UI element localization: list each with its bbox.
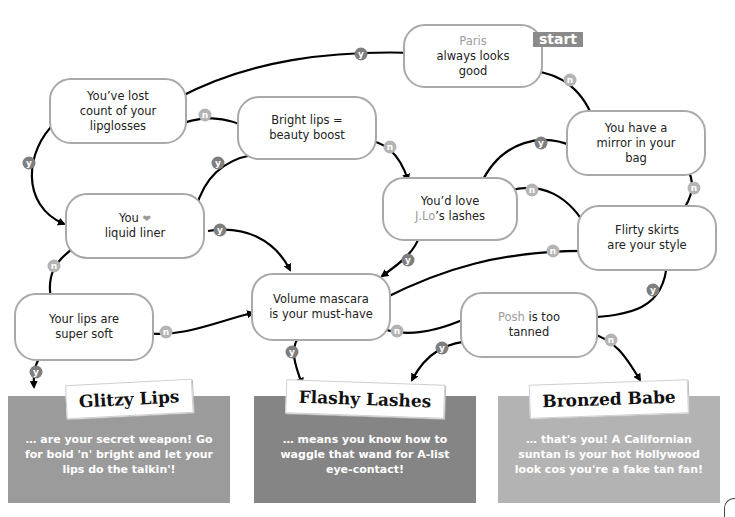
result-title: Bronzed Babe <box>529 379 689 419</box>
node-text: Flirty skirts <box>615 223 679 237</box>
no-badge: n <box>526 184 539 197</box>
heart-icon: ❤ <box>143 213 151 224</box>
node-liner: You ❤ liquid liner <box>65 193 205 259</box>
node-text: mirror in your <box>597 136 676 150</box>
node-text: count of your <box>80 104 157 118</box>
node-text: Bright lips = <box>271 113 343 127</box>
yes-badge: y <box>647 284 660 297</box>
node-text: Volume mascara <box>273 292 369 306</box>
node-text: good <box>459 64 488 78</box>
node-text: is your must-have <box>269 307 373 321</box>
yes-badge: y <box>30 366 43 379</box>
yes-badge: y <box>214 224 227 237</box>
node-text: tanned <box>509 325 550 339</box>
node-mirror: You have a mirror in your bag <box>566 110 706 176</box>
node-paris: Paris always looks good <box>403 24 543 88</box>
result-glitzy-lips: Glitzy Lips … are your secret weapon! Go… <box>8 396 230 503</box>
node-text: ’s lashes <box>435 209 485 223</box>
node-soft-lips: Your lips are super soft <box>14 293 154 361</box>
result-title: Flashy Lashes <box>285 379 445 419</box>
node-text: You’ve lost <box>87 89 149 103</box>
node-text: You have a <box>605 121 667 135</box>
highlight-posh: Posh <box>498 310 525 324</box>
node-lipglosses: You’ve lost count of your lipglosses <box>49 78 187 144</box>
result-title: Glitzy Lips <box>65 379 193 420</box>
node-text: is too <box>525 310 560 324</box>
yes-badge: y <box>286 346 299 359</box>
result-flashy-lashes: Flashy Lashes … means you know how to wa… <box>254 396 476 503</box>
no-badge: n <box>688 182 701 195</box>
no-badge: n <box>605 334 618 347</box>
node-skirts: Flirty skirts are your style <box>577 205 717 271</box>
no-badge: n <box>564 74 577 87</box>
node-text: beauty boost <box>269 128 345 142</box>
highlight-jlo: J.Lo <box>415 209 435 223</box>
node-text: lipglosses <box>90 119 146 133</box>
node-bright-lips: Bright lips = beauty boost <box>237 96 377 160</box>
yes-badge: y <box>535 137 548 150</box>
yes-badge: y <box>355 48 368 61</box>
no-badge: n <box>160 326 173 339</box>
page-curl-mark <box>724 498 735 517</box>
result-body: … means you know how to waggle that wand… <box>254 432 476 477</box>
node-text: super soft <box>55 327 112 341</box>
yes-badge: y <box>402 254 415 267</box>
no-badge: n <box>199 109 212 122</box>
no-badge: n <box>48 260 61 273</box>
highlight-paris: Paris <box>459 34 486 48</box>
node-posh: Posh is too tanned <box>460 292 598 358</box>
node-text: Your lips are <box>49 312 119 326</box>
yes-badge: y <box>436 342 449 355</box>
result-body: … are your secret weapon! Go for bold 'n… <box>8 432 230 477</box>
node-text: You <box>119 211 139 225</box>
node-mascara: Volume mascara is your must-have <box>251 273 391 341</box>
node-text: always looks <box>436 49 509 63</box>
node-text: are your style <box>607 238 686 252</box>
result-body: … that's you! A Californian suntan is yo… <box>498 432 720 477</box>
no-badge: n <box>384 141 397 154</box>
yes-badge: y <box>23 157 36 170</box>
start-tag: start <box>533 32 583 47</box>
node-text: bag <box>625 151 647 165</box>
node-text: You’d love <box>421 194 480 208</box>
node-jlo: You’d love J.Lo’s lashes <box>382 177 518 241</box>
result-bronzed-babe: Bronzed Babe … that's you! A Californian… <box>498 396 720 503</box>
no-badge: n <box>391 325 404 338</box>
node-text: liquid liner <box>105 226 166 240</box>
no-badge: n <box>547 245 560 258</box>
yes-badge: y <box>212 157 225 170</box>
